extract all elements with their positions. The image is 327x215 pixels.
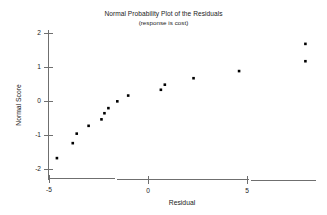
data-point-group <box>56 43 307 160</box>
y-tick-group: -2-1012 <box>35 29 53 172</box>
y-axis-group: -2-1012 Normal Score <box>15 29 53 180</box>
x-axis-title: Residual <box>169 199 196 206</box>
y-tick-label: 2 <box>37 29 41 36</box>
data-point <box>164 83 167 86</box>
data-point <box>304 43 307 46</box>
data-point <box>100 118 103 121</box>
data-point <box>87 125 90 128</box>
y-axis-title: Normal Score <box>15 84 22 126</box>
x-tick-label: 5 <box>245 187 249 194</box>
y-tick-label: 0 <box>37 97 41 104</box>
y-tick-label: 1 <box>37 63 41 70</box>
plot-canvas: -2-1012 Normal Score -505 Residual <box>0 0 327 215</box>
data-point <box>304 60 307 63</box>
data-point <box>192 77 195 80</box>
data-point <box>127 94 130 97</box>
x-tick-label: -5 <box>46 186 52 193</box>
data-point <box>238 70 241 73</box>
x-axis-line <box>49 179 317 181</box>
data-point <box>160 88 163 91</box>
x-tick-label: 0 <box>146 187 150 194</box>
y-tick-label: -2 <box>35 165 41 172</box>
data-point <box>103 112 106 115</box>
normal-probability-plot: Normal Probability Plot of the Residuals… <box>0 0 327 215</box>
data-point <box>75 132 78 135</box>
data-point <box>116 100 119 103</box>
data-point <box>107 107 110 110</box>
data-point <box>71 142 74 145</box>
data-point <box>56 157 59 160</box>
x-tick-group: -505 <box>46 175 249 194</box>
y-tick-label: -1 <box>35 131 41 138</box>
x-axis-group: -505 Residual <box>46 175 316 206</box>
